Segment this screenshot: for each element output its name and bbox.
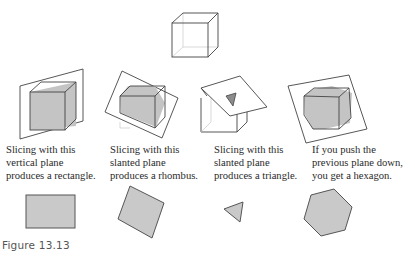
slice-rhombus-diagram — [105, 71, 178, 138]
slice-rectangle-diagram — [20, 69, 83, 139]
caption-line: Slicing with this — [6, 143, 114, 156]
caption-rectangle: Slicing with this vertical plane produce… — [6, 143, 114, 182]
caption-hexagon: If you push the previous plane down, you… — [312, 143, 415, 182]
caption-triangle: Slicing with this slanted plane produces… — [214, 143, 322, 182]
cube-cross-section-figure: Slicing with this vertical plane produce… — [0, 0, 415, 258]
caption-line: Slicing with this — [110, 143, 218, 156]
caption-line: slanted plane — [214, 156, 322, 169]
caption-line: produces a rhombus. — [110, 169, 218, 182]
caption-rhombus: Slicing with this slanted plane produces… — [110, 143, 218, 182]
caption-line: vertical plane — [6, 156, 114, 169]
caption-line: you get a hexagon. — [312, 169, 415, 182]
caption-line: If you push the — [312, 143, 415, 156]
caption-line: previous plane down, — [312, 156, 415, 169]
slice-triangle-diagram — [201, 76, 267, 132]
result-triangle — [224, 202, 243, 222]
caption-line: produces a triangle. — [214, 169, 322, 182]
caption-line: Slicing with this — [214, 143, 322, 156]
slice-hexagon-diagram — [288, 75, 367, 143]
result-hexagon — [304, 189, 352, 236]
result-rectangle — [26, 195, 75, 228]
caption-line: slanted plane — [110, 156, 218, 169]
figure-drawing — [0, 0, 415, 258]
result-rhombus — [118, 186, 164, 238]
caption-line: produces a rectangle. — [6, 169, 114, 182]
reference-cube — [172, 13, 218, 57]
figure-label: Figure 13.13 — [2, 239, 70, 251]
